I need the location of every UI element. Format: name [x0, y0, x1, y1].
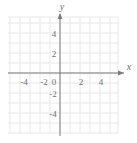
- y-tick-label-neg2: -2: [49, 89, 57, 99]
- grid-lines: [8, 17, 118, 133]
- y-axis-arrowhead: [58, 13, 63, 19]
- coordinate-plane-figure: -4 -2 2 4 4 2 -2 -4 0 x y: [0, 0, 137, 143]
- x-tick-label-pos2: 2: [79, 77, 84, 87]
- x-axis-tick-labels: -4 -2 2 4: [20, 77, 104, 87]
- grid-lines-horizontal: [8, 17, 118, 133]
- y-axis-label: y: [59, 1, 65, 12]
- y-tick-label-neg4: -4: [49, 109, 57, 119]
- x-axis-label: x: [126, 61, 132, 72]
- x-axis-arrowhead: [118, 71, 124, 76]
- y-tick-label-pos2: 2: [52, 49, 57, 59]
- grid-lines-vertical: [10, 17, 118, 133]
- x-tick-label-neg4: -4: [20, 77, 28, 87]
- x-tick-label-pos4: 4: [99, 77, 104, 87]
- y-tick-label-pos4: 4: [52, 29, 57, 39]
- coordinate-grid-svg: -4 -2 2 4 4 2 -2 -4 0 x y: [0, 0, 137, 143]
- axes: [8, 13, 124, 136]
- x-tick-label-neg2: -2: [40, 77, 48, 87]
- origin-label: 0: [52, 77, 57, 87]
